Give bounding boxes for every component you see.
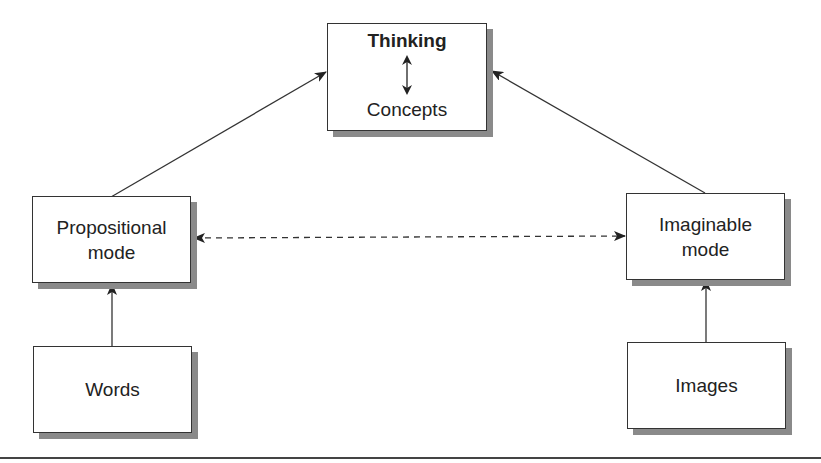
dashed-bidirectional-arrow bbox=[194, 236, 625, 238]
propositional-mode-label: mode bbox=[88, 240, 136, 265]
propositional-mode-box: Propositional mode bbox=[32, 196, 191, 283]
imaginable-mode-box: Imaginable mode bbox=[626, 193, 785, 280]
thinking-label: Thinking bbox=[367, 28, 446, 53]
concepts-label: Concepts bbox=[367, 97, 447, 122]
imaginable-mode-label: mode bbox=[682, 237, 730, 262]
propositional-label: Propositional bbox=[57, 215, 167, 240]
imaginable-label: Imaginable bbox=[659, 212, 752, 237]
words-box: Words bbox=[33, 346, 192, 433]
images-box: Images bbox=[627, 342, 786, 429]
double-arrow-icon bbox=[400, 55, 414, 95]
images-label: Images bbox=[675, 373, 737, 398]
bottom-rule bbox=[0, 457, 821, 459]
arrow-propositional-to-thinking bbox=[111, 72, 326, 197]
words-label: Words bbox=[85, 377, 140, 402]
arrow-imaginable-to-thinking bbox=[492, 71, 705, 193]
thinking-concepts-box: Thinking Concepts bbox=[327, 23, 487, 131]
